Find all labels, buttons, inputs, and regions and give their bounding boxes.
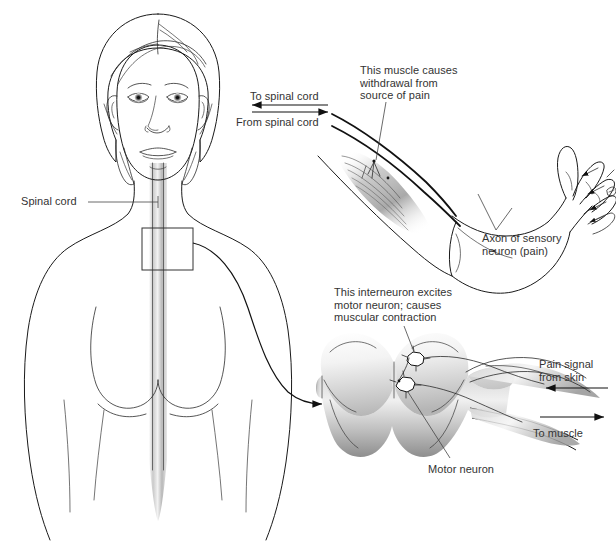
eye-left	[128, 93, 149, 103]
diagram-canvas	[0, 0, 616, 554]
reflex-arc-figure: Spinal cord To spinal cord From spinal c…	[0, 0, 616, 554]
muscle-caption-leader	[376, 102, 386, 160]
biceps-muscle	[338, 151, 432, 235]
hand	[557, 146, 616, 234]
label-to-spinal-cord: To spinal cord	[250, 90, 319, 103]
spinal-cord-shaft	[149, 163, 167, 521]
arm-panel	[318, 114, 616, 293]
eyebrows	[128, 83, 188, 88]
nose	[145, 96, 170, 133]
mouth	[140, 148, 176, 159]
label-muscle-caption: This muscle causes withdrawal from sourc…	[360, 64, 458, 102]
cord-to-section-arrow	[193, 243, 322, 404]
label-spinal-cord: Spinal cord	[21, 195, 77, 208]
label-pain-signal: Pain signal from skin	[539, 358, 593, 383]
label-to-muscle: To muscle	[533, 427, 583, 440]
label-axon-caption: Axon of sensory neuron (pain)	[482, 232, 562, 257]
eye-right	[167, 93, 188, 103]
axon-caption-leader	[478, 194, 496, 230]
label-from-spinal-cord: From spinal cord	[236, 116, 319, 129]
label-motor-neuron: Motor neuron	[428, 463, 494, 476]
label-interneuron-caption: This interneuron excites motor neuron; c…	[334, 286, 452, 324]
